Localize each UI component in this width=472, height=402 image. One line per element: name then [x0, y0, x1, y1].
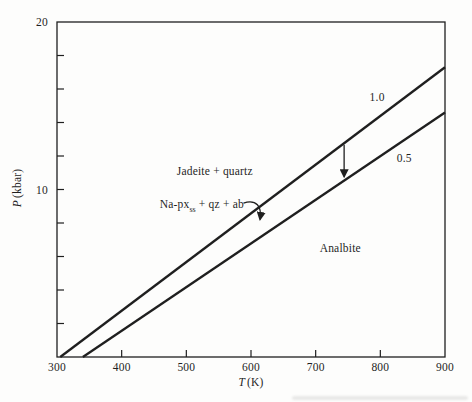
- x-tick-label: 600: [242, 361, 260, 373]
- x-tick-label: 800: [371, 361, 389, 373]
- line-label-1.0: 1.0: [370, 91, 385, 103]
- y-axis-unit: (kbar): [11, 169, 23, 198]
- line-label-0.5: 0.5: [397, 152, 412, 164]
- x-tick-label: 400: [113, 361, 131, 373]
- region-label-jadeite-quartz: Jadeite + quartz: [177, 165, 253, 177]
- x-axis-unit: (K): [247, 376, 264, 388]
- region-label-analbite: Analbite: [320, 242, 361, 254]
- x-tick-label: 900: [436, 361, 454, 373]
- plot-border: [57, 22, 445, 357]
- x-axis-title: T(K): [238, 376, 263, 388]
- x-axis-variable: T: [238, 376, 245, 388]
- y-tick-label: 10: [36, 184, 48, 196]
- y-axis-variable: P: [11, 200, 23, 207]
- phase-diagram-figure: 3004005006007008009001020 P(kbar) T(K) J…: [0, 0, 472, 402]
- y-axis-title: P(kbar): [11, 169, 23, 208]
- x-tick-label: 500: [177, 361, 195, 373]
- y-tick-label: 20: [36, 16, 48, 28]
- x-tick-label: 700: [307, 361, 325, 373]
- axes-frame: [57, 22, 445, 357]
- x-tick-label: 300: [48, 361, 66, 373]
- phase-boundary-lines: [60, 67, 445, 357]
- cropped-caption-artifact: [292, 396, 468, 400]
- phase-boundary-1.0: [60, 67, 445, 357]
- region-label-napx-qz-ab: Na-pxss + qz + ab: [160, 199, 244, 214]
- phase-boundary-0.5: [83, 112, 445, 357]
